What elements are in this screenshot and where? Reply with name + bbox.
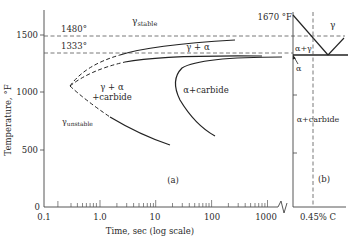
carbide-curve (175, 57, 282, 136)
start-curve-lower (110, 117, 170, 145)
y-tick-1500: 1500 (16, 30, 38, 40)
region-gamma-unstable: γunstable (62, 117, 93, 127)
y-tick-1000: 1000 (16, 87, 38, 97)
region-b-alpha-gamma: α+γ (295, 44, 312, 53)
x-ticks (58, 200, 268, 207)
x-tick-1000: 1000 (255, 212, 277, 222)
region-alpha-carbide: α+carbide (183, 85, 228, 95)
finish-curve-upper (125, 56, 262, 62)
ttt-diagram: 1500 1000 500 0 Temperature, °F 0.1 1.0 … (0, 0, 352, 242)
panel-b-label: (b) (318, 174, 330, 184)
region-b-alpha-carbide: α+carbide (297, 115, 340, 124)
x-tick-100: 100 (204, 212, 220, 222)
region-gamma-alpha-carbide-2: +carbide (92, 92, 132, 102)
x-tick-1.0: 1.0 (93, 212, 107, 222)
label-1480: 1480° (61, 24, 87, 34)
acm-line (328, 38, 344, 55)
y-ticks (40, 35, 44, 150)
top-temperature-label: 1670 °F (258, 12, 293, 22)
region-b-alpha: α (296, 64, 302, 73)
label-1333: 1333° (61, 41, 87, 51)
x-tick-10: 10 (150, 212, 161, 222)
region-b-gamma: γ (330, 20, 335, 30)
y-tick-0: 0 (35, 202, 40, 212)
composition-label: 0.45% C (300, 212, 336, 222)
region-gamma-stable: γstable (132, 16, 157, 28)
x-axis-title: Time, sec (log scale) (106, 226, 194, 236)
region-gamma-alpha: γ + α (186, 42, 210, 52)
y-tick-500: 500 (22, 145, 38, 155)
region-gamma-alpha-carbide-1: γ + α (100, 82, 124, 92)
axis-break-icon (278, 201, 287, 213)
x-tick-0.1: 0.1 (37, 212, 51, 222)
y-axis-title: Temperature, °F (3, 84, 13, 155)
panel-a-label: (a) (167, 175, 179, 185)
